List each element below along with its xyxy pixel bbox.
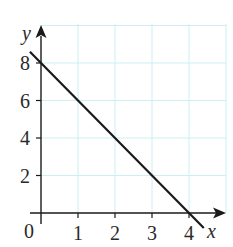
x-tick-label: 2 [110,222,120,244]
ticks: 12342468 [20,52,194,244]
origin-label: 0 [24,220,34,242]
x-tick-label: 3 [147,222,157,244]
y-tick-label: 8 [20,52,30,74]
y-tick-label: 2 [20,165,30,187]
y-tick-label: 6 [20,90,30,112]
y-tick-label: 4 [20,127,30,149]
y-axis-label: y [20,22,31,45]
axes [30,25,226,224]
x-axis-label: x [206,220,216,242]
x-tick-label: 4 [184,222,194,244]
x-tick-label: 1 [73,222,83,244]
line-chart: 12342468 y x 0 [0,0,233,247]
grid [41,24,226,213]
series-line [30,52,204,228]
labels: y x 0 [20,22,216,242]
series [30,52,204,228]
